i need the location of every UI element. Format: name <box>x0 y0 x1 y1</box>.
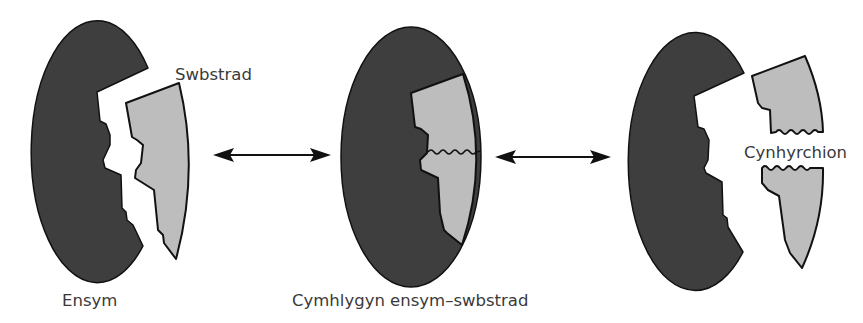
stage-enzyme-and-substrate: Swbstrad Ensym <box>31 21 252 310</box>
stage-enzyme-substrate-complex: Cymhlygyn ensym–swbstrad <box>292 27 528 310</box>
enzyme-label: Ensym <box>62 291 117 310</box>
product-top-shape <box>752 56 823 134</box>
products-label: Cynhyrchion <box>744 143 847 162</box>
stage-enzyme-and-products: Cynhyrchion <box>628 33 847 291</box>
enzyme-reaction-diagram: Swbstrad Ensym Cymhlygyn ensym–swbstrad … <box>0 0 863 323</box>
double-arrow-icon <box>495 150 611 164</box>
enzyme-shape <box>31 21 148 283</box>
substrate-label: Swbstrad <box>175 65 252 84</box>
complex-label: Cymhlygyn ensym–swbstrad <box>292 291 528 310</box>
double-arrow-icon <box>213 148 331 162</box>
enzyme-shape <box>628 33 744 291</box>
product-bottom-shape <box>762 166 823 268</box>
